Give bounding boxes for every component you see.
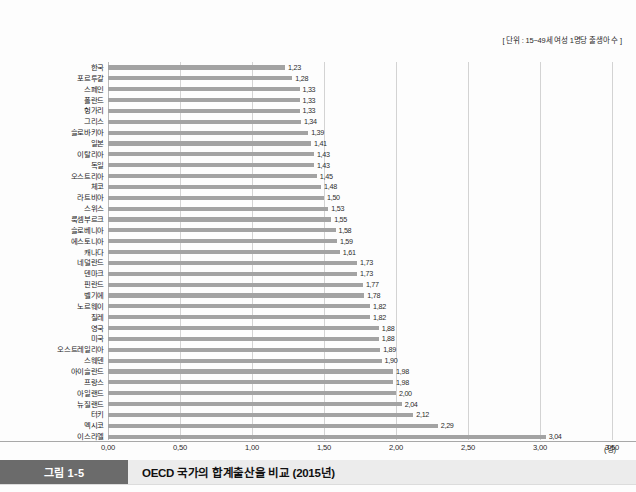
bar bbox=[108, 304, 370, 308]
category-label: 폴란드 bbox=[8, 95, 104, 106]
category-label: 스위스 bbox=[8, 203, 104, 214]
x-tick-label: 0,00 bbox=[101, 443, 115, 452]
bar bbox=[108, 239, 337, 243]
category-label: 오스트레일리아 bbox=[8, 344, 104, 355]
category-label: 아이슬란드 bbox=[8, 366, 104, 377]
category-label: 네덜란드 bbox=[8, 257, 104, 268]
bar-value-label: 1,82 bbox=[373, 301, 386, 312]
chart-row: 라트비아1,50 bbox=[0, 192, 636, 203]
category-label: 스페인 bbox=[8, 84, 104, 95]
figure-title: OECD 국가의 합계출산율 비교 (2015년) bbox=[128, 460, 636, 484]
bar bbox=[108, 283, 363, 287]
bar-value-label: 1,90 bbox=[385, 355, 398, 366]
chart-row: 미국1,88 bbox=[0, 333, 636, 344]
bar bbox=[108, 76, 292, 80]
figure-container: [ 단위 : 15~49세 여성 1명당 출생아 수 ] 한국1,23포르투갈1… bbox=[0, 0, 636, 492]
category-label: 헝가리 bbox=[8, 105, 104, 116]
x-tick-label: 1,00 bbox=[245, 443, 259, 452]
bar bbox=[108, 228, 336, 232]
category-label: 핀란드 bbox=[8, 279, 104, 290]
chart-row: 한국1,23 bbox=[0, 62, 636, 73]
x-tick-label: 2,50 bbox=[461, 443, 475, 452]
bar bbox=[108, 163, 314, 167]
bar-value-label: 1,41 bbox=[314, 138, 327, 149]
chart-row: 터키2,12 bbox=[0, 409, 636, 420]
bar-value-label: 1,53 bbox=[331, 203, 344, 214]
bar-value-label: 1,33 bbox=[303, 95, 316, 106]
bar-value-label: 1,43 bbox=[317, 149, 330, 160]
chart-row: 헝가리1,33 bbox=[0, 105, 636, 116]
category-label: 체코 bbox=[8, 181, 104, 192]
category-label: 룩셈부르크 bbox=[8, 214, 104, 225]
bar bbox=[108, 380, 393, 384]
bar bbox=[108, 413, 413, 417]
chart-row: 슬로바키아1,39 bbox=[0, 127, 636, 138]
x-tick-label: 2,00 bbox=[389, 443, 403, 452]
bar-value-label: 1,77 bbox=[366, 279, 379, 290]
category-label: 슬로베니아 bbox=[8, 225, 104, 236]
chart-bar-rows: 한국1,23포르투갈1,28스페인1,33폴란드1,33헝가리1,33그리스1,… bbox=[0, 62, 636, 442]
bar bbox=[108, 293, 364, 297]
chart-row: 스위스1,53 bbox=[0, 203, 636, 214]
bar-value-label: 1,73 bbox=[360, 268, 373, 279]
bar bbox=[108, 196, 324, 200]
category-label: 프랑스 bbox=[8, 377, 104, 388]
category-label: 캐나다 bbox=[8, 247, 104, 258]
chart-row: 룩셈부르크1,55 bbox=[0, 214, 636, 225]
chart-row: 독일1,43 bbox=[0, 160, 636, 171]
bar bbox=[108, 348, 380, 352]
caption-divider bbox=[0, 484, 636, 485]
chart-row: 에스토니아1,59 bbox=[0, 236, 636, 247]
bar-value-label: 1,59 bbox=[340, 236, 353, 247]
chart-row: 멕시코2,29 bbox=[0, 420, 636, 431]
x-tick-label: 3,00 bbox=[533, 443, 547, 452]
chart-row: 이탈리아1,43 bbox=[0, 149, 636, 160]
bar bbox=[108, 141, 311, 145]
bar-value-label: 2,12 bbox=[416, 409, 429, 420]
chart-row: 오스트레일리아1,89 bbox=[0, 344, 636, 355]
category-label: 포르투갈 bbox=[8, 73, 104, 84]
x-axis-unit-label: (명) bbox=[604, 443, 616, 454]
x-axis-tick-labels: 0,000,501,001,502,002,503,003,50 bbox=[0, 443, 636, 457]
chart-row: 스페인1,33 bbox=[0, 84, 636, 95]
chart-row: 프랑스1,98 bbox=[0, 377, 636, 388]
chart-row: 벨기에1,78 bbox=[0, 290, 636, 301]
bar bbox=[108, 109, 300, 113]
bar bbox=[108, 337, 379, 341]
bar-value-label: 1,28 bbox=[295, 73, 308, 84]
category-label: 그리스 bbox=[8, 116, 104, 127]
bar bbox=[108, 402, 402, 406]
bar bbox=[108, 131, 308, 135]
chart-row: 노르웨이1,82 bbox=[0, 301, 636, 312]
bar-value-label: 2,29 bbox=[441, 420, 454, 431]
chart-row: 포르투갈1,28 bbox=[0, 73, 636, 84]
bar-value-label: 1,82 bbox=[373, 312, 386, 323]
bar-value-label: 1,43 bbox=[317, 160, 330, 171]
chart-row: 폴란드1,33 bbox=[0, 95, 636, 106]
bar bbox=[108, 315, 370, 319]
category-label: 덴마크 bbox=[8, 268, 104, 279]
bar-value-label: 1,58 bbox=[339, 225, 352, 236]
bar-value-label: 1,48 bbox=[324, 181, 337, 192]
bar-value-label: 1,98 bbox=[396, 366, 409, 377]
chart-row: 뉴질랜드2,04 bbox=[0, 399, 636, 410]
bar-value-label: 1,55 bbox=[334, 214, 347, 225]
bar bbox=[108, 185, 321, 189]
bar bbox=[108, 272, 357, 276]
category-label: 스웨덴 bbox=[8, 355, 104, 366]
chart-row: 영국1,88 bbox=[0, 323, 636, 334]
chart-plot-area: 한국1,23포르투갈1,28스페인1,33폴란드1,33헝가리1,33그리스1,… bbox=[0, 62, 636, 442]
bar bbox=[108, 98, 300, 102]
category-label: 한국 bbox=[8, 62, 104, 73]
bar-value-label: 1,33 bbox=[303, 105, 316, 116]
bar-value-label: 1,89 bbox=[383, 344, 396, 355]
category-label: 영국 bbox=[8, 323, 104, 334]
unit-note: [ 단위 : 15~49세 여성 1명당 출생아 수 ] bbox=[502, 34, 622, 45]
bar-value-label: 2,00 bbox=[399, 388, 412, 399]
bar-value-label: 1,61 bbox=[343, 247, 356, 258]
figure-number-badge: 그림 1-5 bbox=[0, 460, 128, 484]
category-label: 뉴질랜드 bbox=[8, 399, 104, 410]
bar bbox=[108, 369, 393, 373]
category-label: 터키 bbox=[8, 409, 104, 420]
bar bbox=[108, 152, 314, 156]
